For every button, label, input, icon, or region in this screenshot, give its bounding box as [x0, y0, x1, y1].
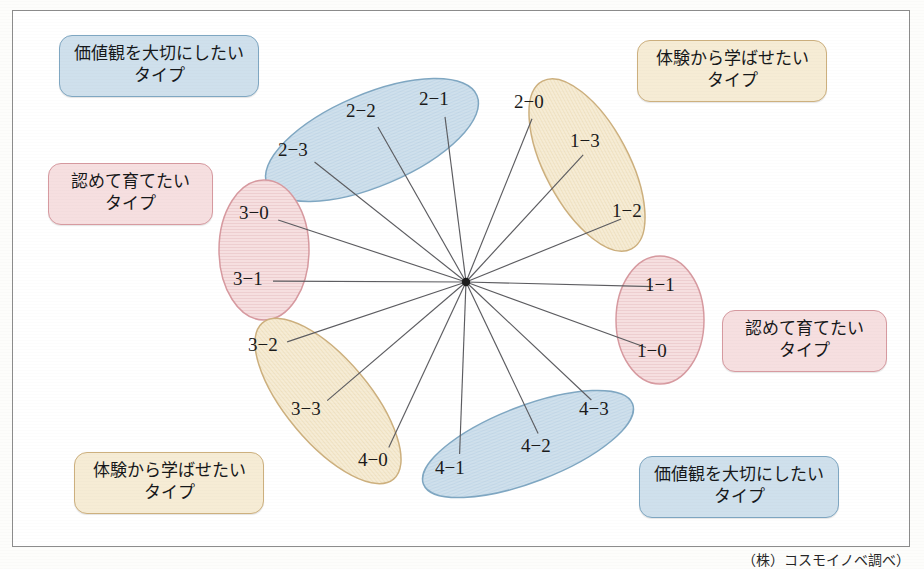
spoke-n_3_3: [327, 282, 466, 401]
callout-left-line1: 認めて育てたい: [59, 171, 202, 193]
callout-top-left-line2: タイプ: [70, 65, 248, 87]
node-label-n_3_3: 3−3: [291, 398, 321, 420]
node-label-n_1_1: 1−1: [645, 274, 675, 296]
node-label-n_3_0: 3−0: [239, 202, 269, 224]
node-label-n_3_1: 3−1: [233, 268, 263, 290]
node-label-n_2_1: 2−1: [419, 88, 449, 110]
callout-top-right-line2: タイプ: [648, 70, 816, 92]
callout-bottom-right-line2: タイプ: [650, 486, 828, 508]
spoke-n_4_3: [466, 282, 591, 400]
node-label-n_1_0: 1−0: [637, 340, 667, 362]
callout-right: 認めて育てたいタイプ: [722, 310, 887, 372]
node-label-n_1_2: 1−2: [612, 200, 642, 222]
spoke-n_4_1: [460, 282, 466, 454]
spoke-n_1_3: [466, 155, 583, 282]
spoke-n_2_0: [466, 119, 532, 282]
node-label-n_2_3: 2−3: [278, 139, 308, 161]
callout-bottom-left-line1: 体験から学ばせたい: [85, 460, 253, 482]
figure-canvas: 2−12−22−32−01−31−21−11−03−03−13−23−34−04…: [0, 0, 924, 569]
callout-top-left: 価値観を大切にしたいタイプ: [59, 35, 259, 97]
callout-left: 認めて育てたいタイプ: [48, 163, 213, 225]
callout-top-left-line1: 価値観を大切にしたい: [70, 43, 248, 65]
node-label-n_4_2: 4−2: [521, 435, 551, 457]
node-label-n_4_3: 4−3: [579, 398, 609, 420]
node-label-n_1_3: 1−3: [570, 130, 600, 152]
callout-bottom-left-line2: タイプ: [85, 482, 253, 504]
callout-bottom-right-line1: 価値観を大切にしたい: [650, 464, 828, 486]
node-label-n_2_0: 2−0: [514, 91, 544, 113]
hub-node: [462, 278, 470, 286]
callout-right-line2: タイプ: [733, 340, 876, 362]
node-label-n_2_2: 2−2: [346, 100, 376, 122]
callout-top-right: 体験から学ばせたいタイプ: [637, 40, 827, 102]
cluster-ellipse-pink_left: [219, 180, 309, 320]
spoke-n_1_2: [466, 219, 621, 282]
spoke-n_3_2: [287, 282, 466, 342]
node-label-n_4_0: 4−0: [358, 449, 388, 471]
node-label-n_4_1: 4−1: [435, 457, 465, 479]
callout-bottom-left: 体験から学ばせたいタイプ: [74, 452, 264, 514]
callout-right-line1: 認めて育てたい: [733, 318, 876, 340]
callout-top-right-line1: 体験から学ばせたい: [648, 48, 816, 70]
callout-left-line2: タイプ: [59, 193, 202, 215]
callout-bottom-right: 価値観を大切にしたいタイプ: [639, 456, 839, 518]
node-label-n_3_2: 3−2: [248, 334, 278, 356]
source-note: （株）コスモイノベ調べ）: [742, 549, 910, 569]
spoke-n_4_0: [389, 282, 466, 448]
